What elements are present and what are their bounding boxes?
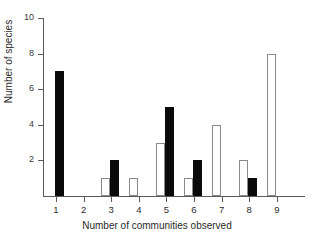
x-tick-label: 5 — [157, 205, 175, 215]
x-tick-label: 8 — [240, 205, 258, 215]
y-tick-mark — [38, 160, 43, 161]
y-axis-label: Number of species — [3, 2, 14, 122]
bar-open — [184, 178, 193, 196]
x-tick-mark — [277, 197, 278, 202]
y-tick-label: 8 — [14, 49, 34, 58]
x-tick-label: 3 — [102, 205, 120, 215]
y-tick-label: 2 — [14, 155, 34, 164]
x-tick-label: 2 — [75, 205, 93, 215]
x-tick-label: 6 — [185, 205, 203, 215]
bar-open — [101, 178, 110, 196]
x-axis-line — [43, 196, 305, 197]
bar-open — [129, 178, 138, 196]
x-tick-mark — [222, 197, 223, 202]
x-tick-label: 1 — [47, 205, 65, 215]
bar-filled — [193, 160, 202, 196]
y-tick-mark — [38, 89, 43, 90]
x-tick-mark — [111, 197, 112, 202]
bar-filled — [55, 71, 64, 196]
x-tick-mark — [249, 197, 250, 202]
x-tick-label: 9 — [268, 205, 286, 215]
x-tick-mark — [139, 197, 140, 202]
y-tick-mark — [38, 18, 43, 19]
x-tick-label: 7 — [213, 205, 231, 215]
bar-filled — [110, 160, 119, 196]
x-tick-label: 4 — [130, 205, 148, 215]
x-tick-mark — [56, 197, 57, 202]
bar-open — [239, 160, 248, 196]
bar-open — [156, 143, 165, 196]
y-tick-mark — [38, 54, 43, 55]
y-tick-label: 6 — [14, 84, 34, 93]
x-tick-mark — [194, 197, 195, 202]
bar-open — [212, 125, 221, 196]
x-tick-mark — [84, 197, 85, 202]
x-tick-mark — [166, 197, 167, 202]
bar-filled — [248, 178, 257, 196]
y-tick-label: 4 — [14, 120, 34, 129]
y-tick-mark — [38, 125, 43, 126]
bar-open — [267, 54, 276, 196]
y-tick-label: 10 — [14, 13, 34, 22]
x-axis-label: Number of communities observed — [0, 220, 314, 231]
chart-figure: Number of species 246810 123456789 Numbe… — [0, 0, 314, 243]
bar-filled — [165, 107, 174, 196]
